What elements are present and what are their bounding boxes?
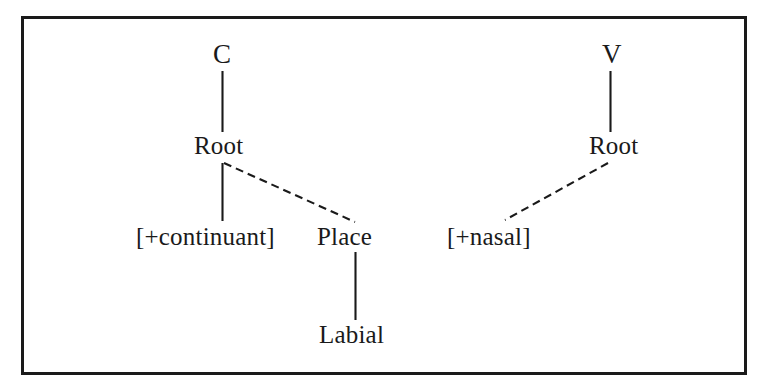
node-label-root-right: Root: [589, 133, 638, 158]
figure-root: C Root [+continuant] Place Labial V Root…: [0, 0, 760, 387]
node-label-c: C: [213, 41, 231, 68]
node-label-continuant: [+continuant]: [136, 224, 275, 249]
node-label-nasal: [+nasal]: [447, 224, 531, 249]
node-label-v: V: [602, 41, 622, 68]
node-label-place: Place: [317, 224, 372, 249]
node-label-labial: Labial: [319, 322, 384, 347]
node-label-root-left: Root: [194, 133, 243, 158]
